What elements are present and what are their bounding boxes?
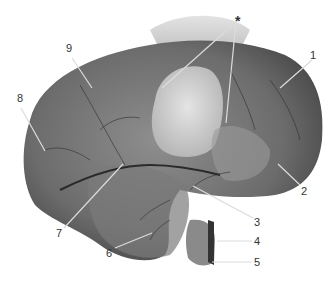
brain-photo [0,0,335,285]
label-asterisk: * [235,14,240,28]
label-6: 6 [106,248,112,259]
label-9: 9 [66,43,72,54]
label-7: 7 [56,228,62,239]
label-3: 3 [254,217,260,228]
label-4: 4 [254,236,260,247]
brain-figure: * 1 2 3 4 5 6 7 8 9 [0,0,335,285]
label-8: 8 [17,93,23,104]
label-1: 1 [310,50,316,61]
label-2: 2 [301,186,307,197]
label-5: 5 [254,257,260,268]
